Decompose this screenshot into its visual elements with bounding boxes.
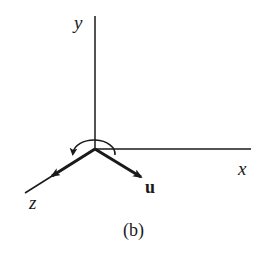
y-axis-label: y [72,12,83,33]
rotation-arc-icon [73,140,115,155]
figure-caption: (b) [123,220,144,241]
u-vector-arrow [95,149,141,177]
coordinate-diagram: y x z u (b) [0,0,275,263]
x-axis-label: x [237,158,247,179]
u-vector-label: u [145,177,155,197]
z-axis-label: z [28,192,37,213]
